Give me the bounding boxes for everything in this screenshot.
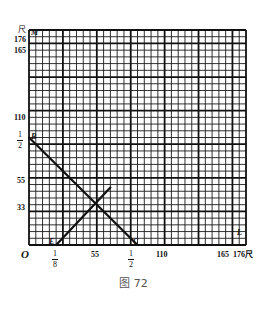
origin-label: O — [21, 248, 29, 260]
y-tick-55: 55 — [17, 177, 25, 185]
y-tick-110: 110 — [14, 114, 26, 122]
x-tick-110: 110 — [156, 251, 168, 259]
x-tick-176: 176尺 — [233, 251, 253, 259]
x-tick-eighth: 1 8 — [51, 250, 59, 269]
x-tick-165: 165 — [217, 251, 229, 259]
y-tick-176: 176 — [14, 36, 26, 44]
point-label-e: E — [49, 238, 54, 246]
y-tick-half: 1 2 — [16, 131, 24, 150]
point-label-l: L — [237, 229, 242, 237]
y-tick-33: 33 — [17, 204, 25, 212]
y-tick-165: 165 — [14, 47, 26, 55]
y-unit-label: 尺 — [18, 26, 26, 34]
graph-paper-figure: 尺 M 176 165 110 1 2 B 55 33 O 1 8 55 1 2… — [0, 0, 267, 310]
point-label-m: M — [31, 29, 38, 37]
x-tick-55: 55 — [91, 251, 99, 259]
point-label-c: C — [133, 238, 138, 246]
x-tick-half: 1 2 — [127, 250, 135, 269]
point-label-b: B — [31, 133, 36, 141]
figure-caption: 图 72 — [0, 274, 267, 290]
